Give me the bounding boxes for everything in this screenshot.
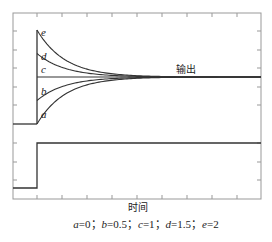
output-curve-d [37,54,261,77]
x-axis-label: 时间 [0,199,272,214]
curve-label-c: c [41,63,46,75]
caption-item-a: a=0； [73,218,101,230]
caption-item-e: e=2 [202,218,219,230]
parameter-caption: a=0；b=0.5；c=1；d=1.5；e=2 [0,215,272,231]
input-step-line [13,143,261,188]
curve-label-b: b [41,85,47,97]
curve-label-a: a [41,108,47,120]
output-curve-b [37,77,261,100]
curve-label-e: e [41,26,46,38]
caption-item-c: c=1； [138,218,166,230]
output-label: 输出 [176,63,196,75]
caption-item-d: d=1.5； [166,218,202,230]
caption-item-b: b=0.5； [102,218,138,230]
curve-label-d: d [41,50,47,62]
output-curves [13,30,261,124]
